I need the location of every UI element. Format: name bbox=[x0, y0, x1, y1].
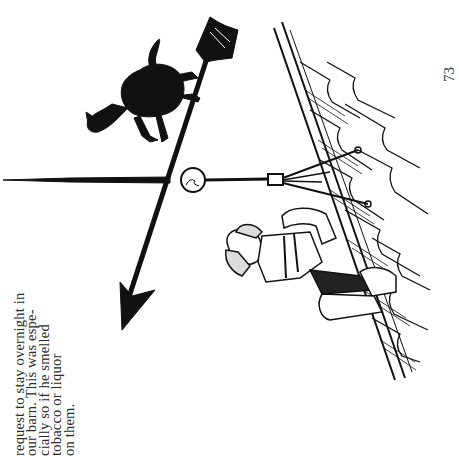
book-page: request to stay overnight in our barn. T… bbox=[0, 0, 459, 456]
weathervane-spire bbox=[3, 150, 368, 204]
weathervane-illustration bbox=[0, 0, 459, 456]
weathervane-arrow bbox=[120, 17, 238, 330]
